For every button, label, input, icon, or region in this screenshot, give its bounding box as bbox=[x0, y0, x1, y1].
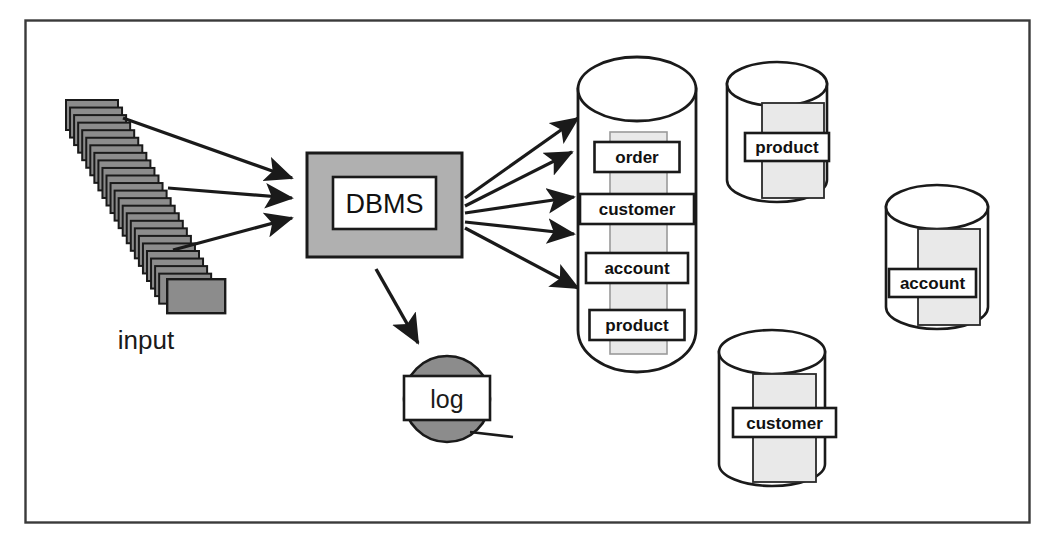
account-label: account bbox=[900, 274, 966, 293]
replica-cylinder-product[interactable]: product bbox=[727, 62, 829, 202]
input-card-front bbox=[167, 279, 225, 313]
diagram-canvas: input DBMS log bbox=[0, 0, 1053, 546]
central-table-label: product bbox=[605, 316, 669, 335]
input-label: input bbox=[118, 325, 175, 355]
central-database-cylinder[interactable]: ordercustomeraccountproduct bbox=[578, 57, 696, 372]
account-cylinder-top bbox=[886, 185, 988, 229]
central-cylinder-top bbox=[578, 57, 696, 121]
customer-label: customer bbox=[746, 414, 823, 433]
product-label: product bbox=[755, 138, 819, 157]
dbms-box[interactable]: DBMS bbox=[307, 153, 462, 257]
central-table-label: customer bbox=[599, 200, 676, 219]
central-table-label: order bbox=[615, 148, 659, 167]
central-table-label: account bbox=[604, 259, 670, 278]
dbms-label: DBMS bbox=[345, 189, 423, 219]
customer-cylinder-top bbox=[719, 330, 825, 374]
dbms-architecture-diagram: input DBMS log bbox=[0, 0, 1053, 546]
log-label: log bbox=[430, 385, 463, 413]
replica-cylinder-customer[interactable]: customer bbox=[719, 330, 836, 486]
product-cylinder-top bbox=[727, 62, 827, 106]
replica-cylinder-account[interactable]: account bbox=[886, 185, 988, 329]
